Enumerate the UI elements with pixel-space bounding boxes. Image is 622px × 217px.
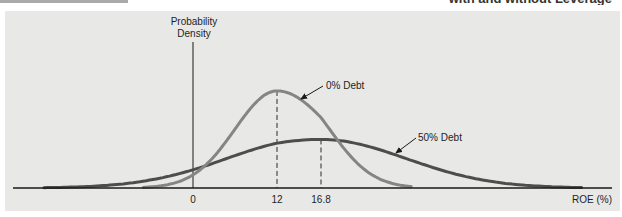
y-axis-label-line-2: Density xyxy=(177,28,210,39)
x-tick-label-16-8: 16.8 xyxy=(311,194,331,205)
callout-arrow-0-debt xyxy=(301,86,323,99)
probability-density-chart: Probability Density 0 12 16.8 ROE (%) 0%… xyxy=(0,0,622,217)
y-axis-label-line-1: Probability xyxy=(171,16,218,27)
legend-label-0-debt: 0% Debt xyxy=(326,80,365,91)
curve-50-percent-debt xyxy=(44,140,582,188)
x-tick-label-12: 12 xyxy=(271,194,283,205)
callout-arrow-50-debt xyxy=(396,138,416,153)
x-tick-label-0: 0 xyxy=(190,194,196,205)
x-axis-label: ROE (%) xyxy=(572,194,612,205)
legend-label-50-debt: 50% Debt xyxy=(418,132,462,143)
